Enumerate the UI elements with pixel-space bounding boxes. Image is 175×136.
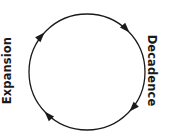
cycle-diagram: Expansion Decadence	[0, 0, 175, 136]
label-expansion: Expansion	[0, 0, 16, 136]
label-decadence: Decadence	[143, 0, 159, 136]
